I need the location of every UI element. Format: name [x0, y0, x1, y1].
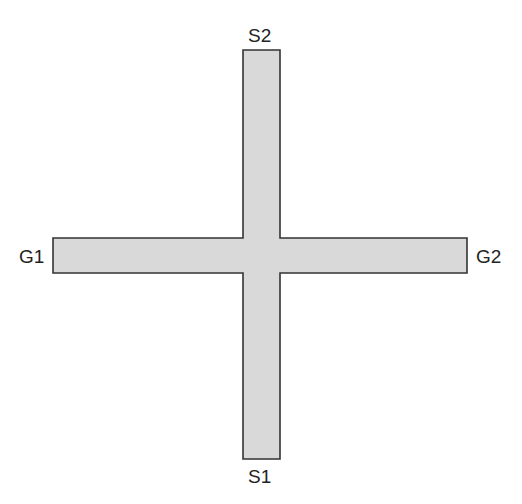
- terminal-label-bottom: S1: [248, 467, 271, 486]
- cross-shape: [53, 50, 467, 459]
- cross-diagram: [0, 0, 522, 504]
- terminal-label-right: G2: [476, 247, 501, 266]
- terminal-label-left: G1: [19, 247, 44, 266]
- terminal-label-top: S2: [248, 26, 271, 45]
